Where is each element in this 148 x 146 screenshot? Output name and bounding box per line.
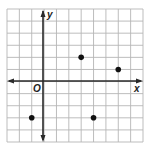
- y-axis-down-arrow-icon: [41, 135, 46, 142]
- data-point: [115, 67, 121, 73]
- y-axis-label: y: [46, 9, 53, 20]
- data-point: [29, 115, 35, 121]
- origin-label: O: [33, 83, 41, 94]
- x-axis-left-arrow-icon: [7, 79, 14, 84]
- data-point: [78, 55, 84, 61]
- data-point: [91, 115, 97, 121]
- coordinate-plane: y x O: [0, 0, 148, 146]
- axes: [7, 10, 143, 142]
- y-axis-up-arrow-icon: [41, 10, 46, 17]
- grid-lines: [7, 9, 143, 142]
- x-axis-label: x: [133, 83, 140, 94]
